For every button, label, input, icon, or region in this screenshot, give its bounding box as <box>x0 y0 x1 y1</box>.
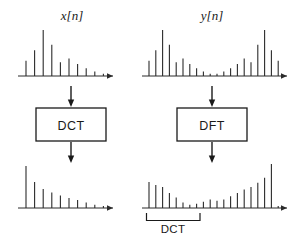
dft-box-label: DFT <box>199 119 225 133</box>
dct-range-bracket: DCT <box>147 213 201 235</box>
x-of-n-axis-arrowhead <box>107 73 113 79</box>
plot-x-of-n: x[n] <box>18 8 113 79</box>
plot-dft-output: DCT <box>142 164 287 235</box>
dft-in-arrow <box>209 86 215 107</box>
plot-dct-output <box>18 166 113 211</box>
y-of-n-label: y[n] <box>199 8 223 23</box>
dft-block: DFT <box>177 86 247 163</box>
plot-y-of-n: y[n] <box>142 8 287 79</box>
x-of-n-axis <box>18 73 113 79</box>
dct-output-axis <box>18 205 113 211</box>
x-of-n-label: x[n] <box>60 8 83 23</box>
y-of-n-axis-arrowhead <box>281 73 287 79</box>
dft-output-axis <box>142 205 287 211</box>
dct-dft-flow-diagram: x[n] y[n] DCT <box>0 0 300 241</box>
y-of-n-axis <box>142 73 287 79</box>
dft-output-stems <box>149 164 278 208</box>
dct-in-arrow <box>68 86 74 107</box>
dft-output-axis-arrowhead <box>281 205 287 211</box>
dct-out-arrow <box>68 142 74 163</box>
dct-box-label: DCT <box>58 119 85 133</box>
dct-output-stems <box>26 166 103 208</box>
y-of-n-stems <box>149 30 278 76</box>
dct-block: DCT <box>36 86 106 163</box>
dct-range-bracket-label: DCT <box>161 223 186 235</box>
dct-output-axis-arrowhead <box>107 205 113 211</box>
dft-out-arrow <box>209 142 215 163</box>
x-of-n-stems <box>26 30 103 76</box>
diagram-canvas: x[n] y[n] DCT <box>0 0 300 241</box>
